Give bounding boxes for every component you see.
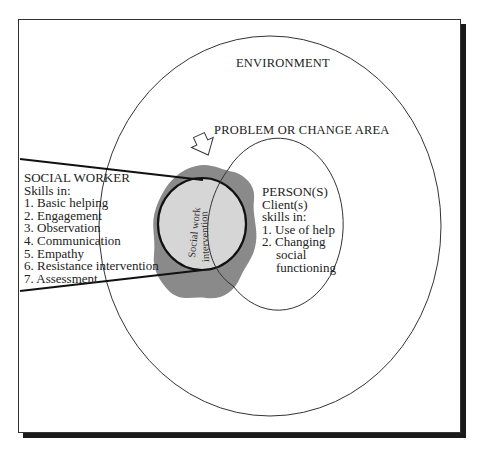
social-worker-block: SOCIAL WORKER Skills in: 1. Basic helpin… — [24, 172, 159, 285]
intervention-text-2: intervention — [198, 210, 211, 262]
skill-item: 7. Assessment — [24, 273, 159, 286]
person-item-cont: functioning — [262, 262, 336, 275]
person-block: PERSON(S) Client(s) skills in: 1. Use of… — [262, 186, 336, 274]
environment-label: ENVIRONMENT — [236, 57, 330, 70]
problem-area-label: PROBLEM OR CHANGE AREA — [214, 124, 390, 137]
